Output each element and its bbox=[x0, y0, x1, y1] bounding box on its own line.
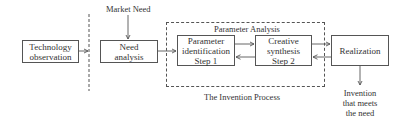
output-line: the need bbox=[346, 108, 375, 118]
invention-output-label: Invention that meets the need bbox=[335, 88, 385, 118]
box-line: Step 1 bbox=[195, 56, 218, 66]
box-line: analysis bbox=[115, 52, 144, 62]
parameter-identification-box: ParameteridentificationStep 1 bbox=[177, 35, 235, 66]
box-line: identification bbox=[182, 46, 230, 56]
box-line: Realization bbox=[340, 46, 381, 56]
box-line: Parameter bbox=[188, 36, 224, 46]
parameter-analysis-label: Parameter Analysis bbox=[214, 24, 280, 34]
market-need-label: Market Need bbox=[106, 4, 151, 14]
invention-process-title: The Invention Process bbox=[204, 92, 280, 102]
box-line: observation bbox=[29, 52, 71, 62]
box-line: Need bbox=[120, 42, 139, 52]
box-line: Technology bbox=[29, 42, 71, 52]
need-analysis-box: Needanalysis bbox=[100, 40, 158, 63]
box-line: Step 2 bbox=[272, 56, 295, 66]
technology-observation-box: Technologyobservation bbox=[22, 40, 79, 63]
box-line: synthesis bbox=[267, 46, 300, 56]
output-line: that meets bbox=[343, 98, 378, 108]
realization-box: Realization bbox=[331, 35, 389, 66]
creative-synthesis-box: CreativesynthesisStep 2 bbox=[255, 35, 312, 66]
box-line: Creative bbox=[268, 36, 299, 46]
output-line: Invention bbox=[344, 88, 377, 98]
